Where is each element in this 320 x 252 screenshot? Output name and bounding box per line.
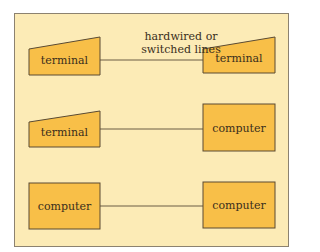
node-label-row3-left: computer xyxy=(29,200,100,213)
node-label-row1-left: terminal xyxy=(29,54,100,67)
node-label-row2-right: computer xyxy=(203,122,275,135)
node-label-row1-right: terminal xyxy=(203,52,275,65)
node-label-row3-right: computer xyxy=(203,199,275,212)
caption-line-1: hardwired or xyxy=(140,30,222,43)
node-label-row2-left: terminal xyxy=(29,126,100,139)
